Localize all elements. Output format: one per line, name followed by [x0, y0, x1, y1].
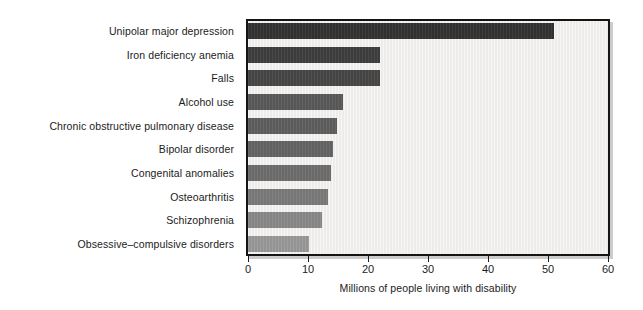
x-tick-label: 10 — [302, 263, 314, 276]
bar — [248, 165, 331, 181]
x-tick-label: 50 — [542, 263, 554, 276]
bar — [248, 212, 322, 228]
x-tick-mark — [548, 256, 549, 262]
x-tick-mark — [308, 256, 309, 262]
x-tick-label: 0 — [245, 263, 251, 276]
x-tick-label: 20 — [362, 263, 374, 276]
bar — [248, 236, 309, 252]
category-label: Alcohol use — [0, 96, 234, 108]
bar — [248, 94, 343, 110]
x-tick-mark — [488, 256, 489, 262]
x-tick-label: 60 — [602, 263, 614, 276]
x-tick-label: 40 — [482, 263, 494, 276]
plot-inner-background — [248, 21, 608, 254]
category-label: Falls — [0, 72, 234, 84]
category-label: Schizophrenia — [0, 214, 234, 226]
bar — [248, 47, 380, 63]
bar — [248, 189, 328, 205]
bar-chart-figure: Unipolar major depressionIron deficiency… — [0, 0, 643, 310]
category-axis-labels: Unipolar major depressionIron deficiency… — [0, 19, 240, 256]
category-label: Unipolar major depression — [0, 25, 234, 37]
category-label: Congenital anomalies — [0, 167, 234, 179]
plot-area — [246, 19, 610, 256]
bar — [248, 23, 554, 39]
category-label: Osteoarthritis — [0, 191, 234, 203]
category-label: Iron deficiency anemia — [0, 49, 234, 61]
bar — [248, 70, 380, 86]
x-tick-mark — [608, 256, 609, 262]
x-tick-label: 30 — [422, 263, 434, 276]
x-tick-mark — [248, 256, 249, 262]
bar — [248, 141, 333, 157]
x-axis-title: Millions of people living with disabilit… — [246, 282, 610, 294]
x-tick-mark — [368, 256, 369, 262]
x-tick-mark — [428, 256, 429, 262]
bar — [248, 118, 337, 134]
category-label: Bipolar disorder — [0, 143, 234, 155]
category-label: Chronic obstructive pulmonary disease — [0, 120, 234, 132]
category-label: Obsessive–compulsive disorders — [0, 238, 234, 250]
